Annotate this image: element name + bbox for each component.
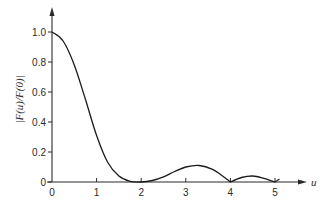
x-tick-label: 1	[94, 187, 100, 198]
y-tick-label: 0.4	[32, 117, 46, 128]
y-axis-label: |F(u)/F(0)|	[13, 75, 26, 123]
x-tick-label: 0	[49, 187, 55, 198]
x-axis	[47, 180, 307, 185]
y-tick-label: 0.2	[32, 147, 46, 158]
y-tick-label: 1.0	[32, 27, 46, 38]
y-tick-label: 0	[40, 177, 46, 188]
data-curve	[52, 32, 280, 182]
x-tick-label: 4	[228, 187, 234, 198]
x-tick-label: 3	[183, 187, 189, 198]
x-ticks: 012345	[49, 178, 278, 198]
y-tick-label: 0.6	[32, 87, 46, 98]
x-tick-label: 5	[272, 187, 278, 198]
chart: 00.20.40.60.81.0 012345 u |F(u)/F(0)|	[0, 0, 325, 209]
x-tick-label: 2	[138, 187, 144, 198]
y-axis-arrow-icon	[50, 7, 55, 16]
x-axis-arrow-icon	[298, 180, 307, 185]
x-axis-label: u	[311, 176, 317, 188]
y-tick-label: 0.8	[32, 57, 46, 68]
y-ticks: 00.20.40.60.81.0	[32, 27, 52, 188]
